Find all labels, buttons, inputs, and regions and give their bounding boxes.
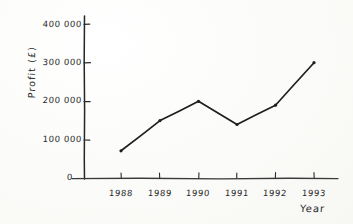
y-tick-label-0: 0 xyxy=(67,172,74,182)
x-axis-title: Year xyxy=(300,203,326,214)
x-tick-label-1990: 1990 xyxy=(180,188,217,198)
x-tick-label-1988: 1988 xyxy=(103,188,140,198)
profit-data-points xyxy=(119,61,315,152)
data-point-marker xyxy=(158,119,161,122)
chart-page: 400 000 300 000 200 000 100 000 0 Profit… xyxy=(0,0,353,224)
data-point-marker xyxy=(197,100,200,103)
x-axis-line xyxy=(72,178,338,179)
data-point-marker xyxy=(312,61,315,64)
y-tick-label-200000: 200 000 xyxy=(38,95,83,105)
data-point-marker xyxy=(119,149,122,152)
data-point-marker xyxy=(274,104,277,107)
x-tick-label-1992: 1992 xyxy=(257,188,294,198)
profit-line xyxy=(121,63,314,151)
data-series-profit xyxy=(119,61,315,152)
y-tick-label-400000: 400 000 xyxy=(38,19,83,29)
x-tick-label-1993: 1993 xyxy=(296,188,333,198)
y-axis-title: Profit (£) xyxy=(26,46,37,99)
axis-lines xyxy=(72,16,338,179)
y-tick-label-300000: 300 000 xyxy=(38,57,83,67)
data-point-marker xyxy=(235,123,238,126)
y-tick-label-100000: 100 000 xyxy=(38,134,83,144)
x-tick-label-1991: 1991 xyxy=(219,188,256,198)
x-axis-ticks xyxy=(121,173,314,178)
x-tick-label-1989: 1989 xyxy=(142,188,179,198)
